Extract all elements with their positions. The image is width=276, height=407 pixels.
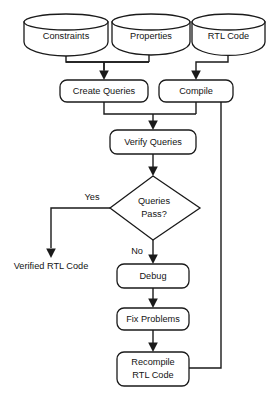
edge-label-yes: Yes xyxy=(85,192,100,202)
node-fix-problems-label: Fix Problems xyxy=(126,314,180,324)
node-constraints[interactable]: Constraints xyxy=(24,14,108,56)
arrowhead-create-queries xyxy=(99,71,109,81)
arrowhead-verified-rtl-code xyxy=(46,249,56,259)
node-recompile-rtl-code[interactable]: Recompile RTL Code xyxy=(117,352,189,386)
node-create-queries-label: Create Queries xyxy=(73,86,136,96)
node-debug[interactable]: Debug xyxy=(117,264,189,288)
arrowhead-debug xyxy=(148,255,158,265)
node-properties[interactable]: Properties xyxy=(112,14,190,55)
node-verify-queries[interactable]: Verify Queries xyxy=(110,130,196,154)
node-verify-queries-label: Verify Queries xyxy=(124,137,182,147)
node-queries-pass-label-line2: Pass? xyxy=(141,209,167,219)
node-queries-pass-decision[interactable]: Queries Pass? xyxy=(110,176,200,240)
node-verified-rtl-code-label: Verified RTL Code xyxy=(14,261,89,271)
flowchart-canvas: Constraints Properties RTL Code Create Q… xyxy=(0,0,276,407)
node-recompile-rtl-code-label-line1: Recompile xyxy=(131,357,174,367)
arrowhead-verify-queries xyxy=(148,121,158,131)
arrowhead-fix-problems xyxy=(148,299,158,309)
arrowhead-recompile xyxy=(148,343,158,353)
node-queries-pass-label-line1: Queries xyxy=(138,196,171,206)
edge-yes-to-verified-rtl-code xyxy=(51,208,110,248)
edge-create-queries-to-verify xyxy=(104,102,196,114)
node-fix-problems[interactable]: Fix Problems xyxy=(117,308,189,330)
node-properties-label: Properties xyxy=(130,31,172,41)
node-constraints-label: Constraints xyxy=(43,31,90,41)
node-debug-label: Debug xyxy=(139,271,166,281)
flowchart-svg: Constraints Properties RTL Code Create Q… xyxy=(0,0,276,407)
node-recompile-rtl-code-label-line2: RTL Code xyxy=(132,370,173,380)
node-compile[interactable]: Compile xyxy=(159,80,233,102)
node-compile-label: Compile xyxy=(179,86,213,96)
node-rtl-code-label: RTL Code xyxy=(208,31,249,41)
edge-label-no: No xyxy=(131,246,143,256)
node-rtl-code[interactable]: RTL Code xyxy=(192,14,265,55)
arrowhead-decision xyxy=(148,167,158,177)
node-create-queries[interactable]: Create Queries xyxy=(60,80,148,102)
arrowhead-compile xyxy=(191,71,201,81)
